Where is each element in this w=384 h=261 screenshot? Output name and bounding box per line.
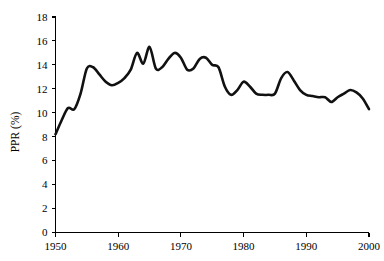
y-tick-label: 0 bbox=[42, 226, 48, 238]
y-tick-label: 14 bbox=[37, 59, 49, 71]
ppr-line-chart: 024681012141618 195019601970198019902000… bbox=[0, 0, 384, 261]
x-tick-label: 1980 bbox=[233, 240, 256, 252]
chart-container: 024681012141618 195019601970198019902000… bbox=[0, 0, 384, 261]
y-tick-label: 8 bbox=[42, 131, 48, 143]
x-axis-ticks: 195019601970198019902000 bbox=[45, 233, 381, 252]
y-tick-label: 16 bbox=[37, 35, 49, 47]
data-series-ppr bbox=[56, 47, 370, 134]
y-tick-label: 12 bbox=[37, 83, 48, 95]
y-tick-label: 2 bbox=[42, 202, 48, 214]
y-axis-title: PPR (%) bbox=[9, 112, 22, 153]
y-tick-label: 4 bbox=[42, 178, 48, 190]
x-tick-label: 1950 bbox=[45, 240, 68, 252]
y-tick-label: 10 bbox=[37, 107, 49, 119]
x-tick-label: 1990 bbox=[295, 240, 318, 252]
y-tick-label: 6 bbox=[42, 154, 48, 166]
x-tick-label: 1970 bbox=[170, 240, 193, 252]
y-axis-ticks: 024681012141618 bbox=[37, 11, 56, 239]
x-tick-label: 2000 bbox=[358, 240, 381, 252]
x-tick-label: 1960 bbox=[107, 240, 130, 252]
y-tick-label: 18 bbox=[37, 11, 49, 23]
